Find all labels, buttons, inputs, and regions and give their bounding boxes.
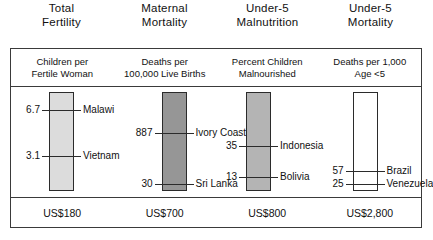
tick-mark (346, 171, 385, 172)
units-line1: Deaths per (114, 56, 217, 68)
cost-total-fertility: US$180 (11, 207, 114, 219)
units-line2: Fertile Woman (11, 68, 114, 80)
chart-frame: Children per Fertile Woman Deaths per 10… (10, 48, 422, 228)
tick-value: 30 (113, 179, 153, 189)
column-header-line1: Under-5 (319, 2, 422, 16)
bar-column-under5-mortality: 57 Brazil 25 Venezuela (319, 86, 422, 197)
tick-value: 887 (113, 128, 153, 138)
column-header-line2: Mortality (319, 16, 422, 30)
tick-mark (155, 184, 194, 185)
units-line2: 100,000 Live Births (114, 68, 217, 80)
units-line2: Malnourished (216, 68, 319, 80)
bars-row: 6.7 Malawi 3.1 Vietnam 887 Ivory Coast 3… (11, 86, 421, 197)
tick-mark (239, 146, 278, 147)
tick-country-label: Brazil (387, 166, 412, 176)
bar-column-total-fertility: 6.7 Malawi 3.1 Vietnam (11, 86, 114, 197)
tick-mark (346, 184, 385, 185)
bar-maternal-mortality (162, 92, 187, 191)
cost-maternal-mortality: US$700 (114, 207, 217, 219)
tick-country-label: Indonesia (280, 141, 323, 151)
cost-row: US$180 US$700 US$800 US$2,800 (11, 197, 421, 228)
column-header-line1: Total (10, 2, 113, 16)
tick-value: 13 (197, 172, 237, 182)
tick-value: 35 (197, 141, 237, 151)
tick-value: 6.7 (0, 105, 40, 115)
column-header-line1: Under-5 (216, 2, 319, 16)
tick-mark (42, 110, 81, 111)
units-maternal-mortality: Deaths per 100,000 Live Births (114, 56, 217, 79)
tick-country-label: Malawi (83, 105, 114, 115)
units-under5-malnutrition: Percent Children Malnourished (216, 56, 319, 79)
column-header-under5-mortality: Under-5 Mortality (319, 2, 422, 46)
units-line1: Deaths per 1,000 (319, 56, 422, 68)
column-header-line2: Mortality (113, 16, 216, 30)
units-row: Children per Fertile Woman Deaths per 10… (11, 49, 421, 86)
column-header-line2: Fertility (10, 16, 113, 30)
tick-value: 25 (304, 179, 344, 189)
units-line1: Children per (11, 56, 114, 68)
tick-country-label: Venezuela (387, 179, 433, 189)
column-header-line2: Malnutrition (216, 16, 319, 30)
cost-under5-malnutrition: US$800 (216, 207, 319, 219)
cost-under5-mortality: US$2,800 (319, 207, 422, 219)
column-header-total-fertility: Total Fertility (10, 2, 113, 46)
bar-under5-mortality (353, 92, 378, 191)
bar-total-fertility (49, 92, 74, 191)
column-headers: Total Fertility Maternal Mortality Under… (10, 2, 422, 46)
units-total-fertility: Children per Fertile Woman (11, 56, 114, 79)
tick-value: 3.1 (0, 151, 40, 161)
units-line1: Percent Children (216, 56, 319, 68)
tick-mark (239, 177, 278, 178)
tick-value: 57 (304, 166, 344, 176)
tick-mark (42, 156, 81, 157)
column-header-line1: Maternal (113, 2, 216, 16)
tick-mark (155, 133, 194, 134)
column-header-under5-malnutrition: Under-5 Malnutrition (216, 2, 319, 46)
units-under5-mortality: Deaths per 1,000 Age <5 (319, 56, 422, 79)
units-line2: Age <5 (319, 68, 422, 80)
column-header-maternal-mortality: Maternal Mortality (113, 2, 216, 46)
